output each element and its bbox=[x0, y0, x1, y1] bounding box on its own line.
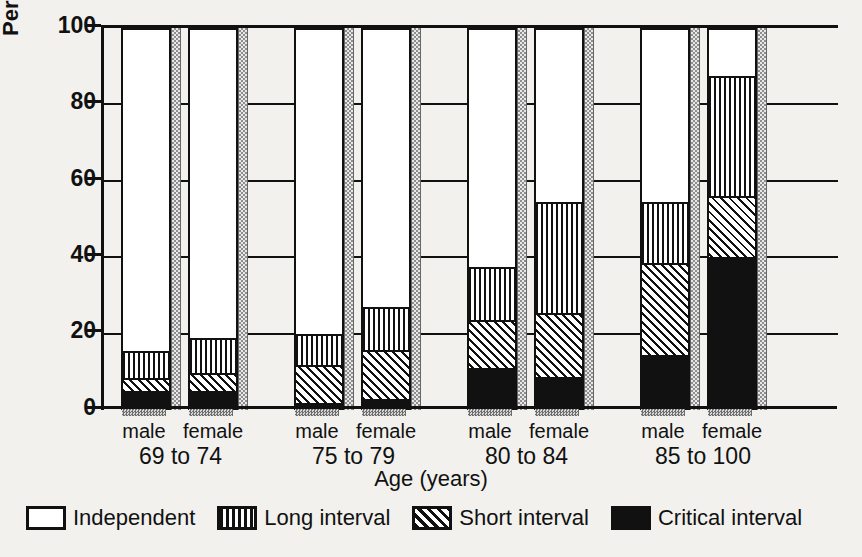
bar-foot bbox=[295, 409, 339, 416]
legend-swatch-critical-interval-icon bbox=[611, 506, 651, 530]
plot-area bbox=[101, 25, 838, 410]
segment-critical-interval bbox=[642, 355, 688, 408]
bar-foot bbox=[641, 409, 685, 416]
x-label-female-80-84: female bbox=[516, 420, 602, 443]
legend-swatch-short-interval-icon bbox=[412, 506, 452, 530]
y-tick-mark-60 bbox=[87, 177, 101, 180]
legend-item-independent: Independent bbox=[26, 505, 195, 531]
x-label-female-69-74: female bbox=[170, 420, 256, 443]
legend-swatch-independent-icon bbox=[26, 506, 66, 530]
bar-divider-8 bbox=[757, 28, 767, 410]
x-axis-title: Age (years) bbox=[0, 466, 862, 492]
chart-legend: Independent Long interval Short interval… bbox=[26, 505, 824, 531]
bar-female-69-74 bbox=[188, 28, 238, 410]
bar-foot bbox=[122, 409, 166, 416]
x-label-female-85-100: female bbox=[689, 420, 775, 443]
bar-divider-7 bbox=[690, 28, 700, 410]
bar-foot bbox=[189, 409, 233, 416]
bar-foot bbox=[468, 409, 512, 416]
bar-divider-1 bbox=[171, 28, 181, 410]
y-axis-title: Percentage of people bbox=[0, 0, 24, 36]
legend-item-long-interval: Long interval bbox=[217, 505, 390, 531]
bar-divider-2 bbox=[238, 28, 248, 410]
segment-short-interval bbox=[296, 365, 342, 408]
y-tick-mark-40 bbox=[87, 253, 101, 256]
segment-critical-interval bbox=[709, 257, 755, 408]
y-tick-mark-20 bbox=[87, 329, 101, 332]
y-tick-mark-80 bbox=[87, 100, 101, 103]
bar-female-85-100 bbox=[707, 28, 757, 410]
x-label-female-75-79: female bbox=[343, 420, 429, 443]
bar-divider-5 bbox=[517, 28, 527, 410]
legend-item-short-interval: Short interval bbox=[412, 505, 589, 531]
y-tick-mark-100 bbox=[87, 24, 101, 27]
bar-divider-3 bbox=[344, 28, 354, 410]
y-axis-tick-labels: 100 80 60 40 20 0 bbox=[34, 0, 96, 420]
legend-label-short-interval: Short interval bbox=[459, 505, 589, 531]
bar-divider-4 bbox=[411, 28, 421, 410]
bar-female-80-84 bbox=[534, 28, 584, 410]
bar-foot bbox=[535, 409, 579, 416]
bar-foot bbox=[362, 409, 406, 416]
bar-male-80-84 bbox=[467, 28, 517, 410]
legend-label-long-interval: Long interval bbox=[264, 505, 390, 531]
legend-label-independent: Independent bbox=[73, 505, 195, 531]
segment-critical-interval bbox=[536, 377, 582, 408]
legend-swatch-long-interval-icon bbox=[217, 506, 257, 530]
bar-male-69-74 bbox=[121, 28, 171, 410]
bar-male-75-79 bbox=[294, 28, 344, 410]
segment-critical-interval bbox=[469, 368, 515, 408]
bar-divider-6 bbox=[584, 28, 594, 410]
chart-figure: Percentage of people 100 80 60 40 20 0 bbox=[0, 0, 862, 557]
legend-item-critical-interval: Critical interval bbox=[611, 505, 802, 531]
bar-male-85-100 bbox=[640, 28, 690, 410]
legend-label-critical-interval: Critical interval bbox=[658, 505, 802, 531]
bar-female-75-79 bbox=[361, 28, 411, 410]
bar-foot bbox=[708, 409, 752, 416]
